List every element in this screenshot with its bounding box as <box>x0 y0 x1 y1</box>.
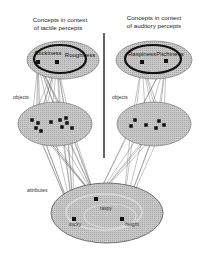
object-node <box>36 121 40 125</box>
concept-label-roughness: Roughness <box>65 52 95 58</box>
attribute-node <box>94 197 98 201</box>
tactile-title-line2: of tactile percepts <box>34 24 83 31</box>
auditory-title-line1: Concepts in context <box>127 14 182 21</box>
object-node <box>30 118 34 122</box>
object-node <box>162 123 166 127</box>
attribute-node <box>120 217 124 221</box>
attribute-label-raspy: raspy <box>100 205 113 211</box>
object-node <box>58 118 62 122</box>
object-node <box>144 123 148 127</box>
object-node <box>60 125 64 129</box>
object-node <box>39 129 43 133</box>
attributes-ellipse <box>51 183 163 243</box>
concept-node <box>36 60 40 64</box>
concept-node <box>55 60 59 64</box>
concept-diagram: Concepts in context of tactile percepts … <box>0 0 204 254</box>
object-node <box>70 126 74 130</box>
auditory-title-line2: of auditory percepts <box>127 22 181 29</box>
concept-node <box>140 60 144 64</box>
auditory-objects-label: objects <box>112 94 128 100</box>
attribute-label-sticky: sticky <box>69 221 82 227</box>
object-node <box>64 116 68 120</box>
attribute-node <box>72 217 76 221</box>
concept-label-pitchiness: Pitchiness <box>156 51 183 57</box>
concept-label-stickiness: Stickiness <box>34 50 61 56</box>
tactile-objects-label: objects <box>13 94 29 100</box>
object-node <box>34 126 38 130</box>
object-node <box>65 121 69 125</box>
object-node <box>49 120 53 124</box>
object-node <box>133 118 137 122</box>
tactile-title-line1: Concepts in context <box>33 16 88 23</box>
object-node <box>129 124 133 128</box>
object-node <box>157 119 161 123</box>
tactile-objects-ellipse <box>18 102 92 146</box>
concept-node <box>164 59 168 63</box>
concept-label-raspiness: Raspiness <box>128 51 156 57</box>
attribute-label-height: height <box>125 221 139 227</box>
object-node <box>154 126 158 130</box>
attributes-label: attributes <box>27 187 48 193</box>
auditory-objects-ellipse <box>117 102 191 146</box>
